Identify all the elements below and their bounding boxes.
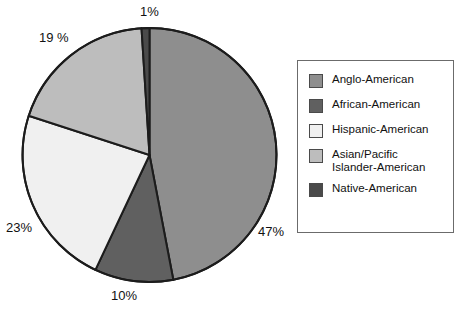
legend-item-native-american[interactable]: Native-American <box>309 182 447 199</box>
slice-label-native-american: 1% <box>140 4 159 19</box>
slice-label-african-american: 10% <box>111 288 137 303</box>
legend-swatch-icon-hispanic-american <box>309 124 323 138</box>
legend: Anglo-American African-American Hispanic… <box>297 60 454 233</box>
legend-item-hispanic-american[interactable]: Hispanic-American <box>309 123 447 140</box>
legend-item-asian-pacific-islander-american[interactable]: Asian/PacificIslander-American <box>309 148 447 174</box>
legend-swatch-icon-anglo-american <box>309 74 323 88</box>
legend-label-line1: Asian/Pacific <box>332 148 425 161</box>
legend-swatch-icon-african-american <box>309 99 323 113</box>
legend-label-african-american: African-American <box>332 98 420 111</box>
legend-label-asian-pacific-islander-american: Asian/PacificIslander-American <box>332 148 425 174</box>
pie-chart: 47% 10% 23% 19 % 1% Anglo-American Afric… <box>0 0 475 315</box>
legend-swatch-icon-native-american <box>309 183 323 197</box>
legend-swatch-icon-asian-pacific-islander-american <box>309 149 323 163</box>
pie-slices <box>23 28 277 282</box>
pie-slice-anglo-american[interactable] <box>150 28 277 280</box>
legend-item-african-american[interactable]: African-American <box>309 98 447 115</box>
slice-label-asian-pacific-islander-american: 19 % <box>39 30 69 45</box>
slice-label-hispanic-american: 23% <box>6 220 32 235</box>
legend-list: Anglo-American African-American Hispanic… <box>309 73 447 199</box>
legend-label-hispanic-american: Hispanic-American <box>332 123 429 136</box>
legend-item-anglo-american[interactable]: Anglo-American <box>309 73 447 90</box>
legend-label-native-american: Native-American <box>332 182 417 195</box>
slice-label-anglo-american: 47% <box>258 224 284 239</box>
legend-label-line2: Islander-American <box>332 161 425 174</box>
legend-label-anglo-american: Anglo-American <box>332 73 414 86</box>
